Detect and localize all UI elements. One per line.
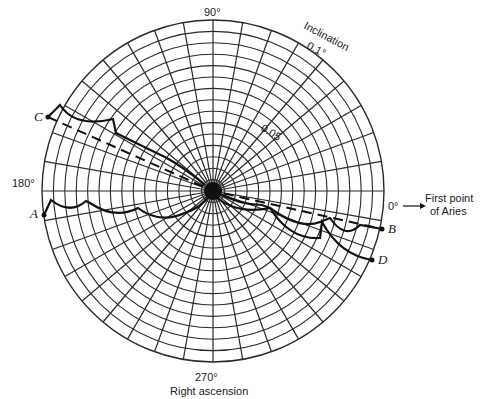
label-90-deg: 90° <box>204 6 221 18</box>
polar-diagram: 90° 180° 0° 270° Right ascension Inclina… <box>0 0 481 399</box>
label-aries-line2: of Aries <box>430 205 467 217</box>
label-180-deg: 180° <box>12 177 35 189</box>
label-270-deg: 270° <box>195 371 218 383</box>
arrow-to-aries <box>403 203 426 209</box>
point-d-marker <box>370 258 375 263</box>
label-inclination-005: 0.05 <box>259 122 284 144</box>
label-aries-line1: First point <box>425 192 473 204</box>
point-a-marker <box>42 213 47 218</box>
point-a-label: A <box>29 206 38 221</box>
point-b-marker <box>380 227 385 232</box>
point-d-label: D <box>377 252 388 267</box>
label-inclination-01: 0.1° <box>305 39 328 59</box>
point-b-label: B <box>388 221 396 236</box>
label-0-deg: 0° <box>388 200 399 212</box>
label-right-ascension: Right ascension <box>170 385 248 397</box>
point-c-label: C <box>34 109 43 124</box>
point-c-marker <box>46 115 51 120</box>
